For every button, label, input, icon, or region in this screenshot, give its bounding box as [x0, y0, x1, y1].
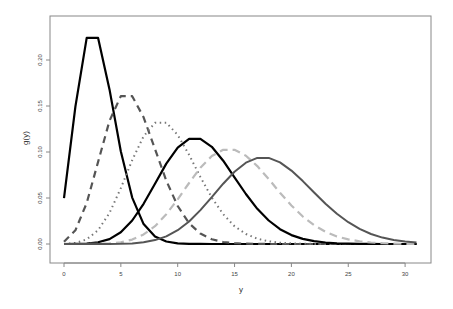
x-tick-label: 25 — [345, 271, 352, 277]
series-line-lambda-6 — [64, 96, 417, 244]
y-tick-label: 0.00 — [37, 238, 43, 250]
y-tick-label: 0.20 — [37, 54, 43, 66]
x-tick-label: 0 — [62, 271, 66, 277]
x-tick-label: 5 — [119, 271, 123, 277]
x-tick-label: 15 — [231, 271, 238, 277]
x-axis-label: y — [239, 285, 243, 294]
series-line-lambda-3 — [64, 38, 417, 244]
series-line-lambda-9 — [64, 123, 417, 244]
y-axis: 0.000.050.100.150.20 — [37, 54, 50, 250]
series-line-lambda-12 — [64, 139, 417, 244]
series-line-lambda-18 — [64, 158, 417, 244]
series-lines — [64, 38, 417, 244]
y-tick-label: 0.05 — [37, 192, 43, 204]
x-tick-label: 10 — [174, 271, 181, 277]
plot-frame — [50, 16, 431, 263]
poisson-density-chart: 051015202530 0.000.050.100.150.20 y g(y) — [0, 0, 453, 309]
x-tick-label: 20 — [288, 271, 295, 277]
x-tick-label: 30 — [402, 271, 409, 277]
x-axis: 051015202530 — [62, 263, 409, 277]
y-axis-label: g(y) — [21, 131, 30, 145]
y-tick-label: 0.10 — [37, 146, 43, 158]
y-tick-label: 0.15 — [37, 100, 43, 112]
